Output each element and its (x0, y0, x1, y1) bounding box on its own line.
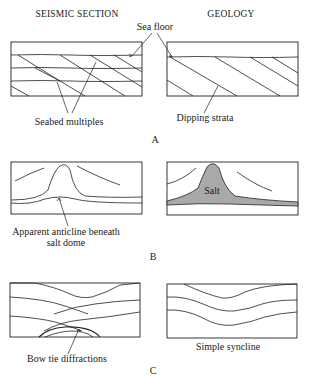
panel-b-seismic-box (11, 162, 142, 214)
salt-dome-body (167, 164, 298, 206)
apparent-anticline-label-line2: salt dome (47, 237, 86, 248)
panel-c: Bow tie diffractions Simple syncline C (10, 283, 297, 376)
panel-a: Sea floor Seabed multiples (11, 21, 298, 145)
panel-label-b: B (150, 251, 157, 262)
bow-tie-arrow (68, 329, 79, 354)
arrowhead (57, 198, 61, 201)
salt-label: Salt (204, 185, 220, 196)
apparent-anticline-label-line1: Apparent anticline beneath (12, 226, 120, 237)
multiples-arrow-2 (72, 62, 96, 113)
sea-floor-arrow-right (157, 33, 172, 57)
panel-b-geology-box: Salt (167, 162, 298, 215)
panel-a-geology-box (167, 42, 298, 96)
panel-a-seismic-box (11, 42, 142, 96)
panel-c-geology-box (167, 284, 297, 338)
header-geology: GEOLOGY (207, 9, 254, 19)
seismic-vs-geology-diagram: SEISMIC SECTION GEOLOGY Sea floor Seabed… (0, 0, 309, 378)
panel-label-c: C (150, 365, 157, 376)
header-seismic-section: SEISMIC SECTION (36, 9, 119, 19)
anticline-arrow (59, 198, 68, 226)
panel-c-seismic-box (10, 283, 140, 337)
panel-b: Apparent anticline beneath salt dome Sal… (11, 162, 298, 262)
dipping-strata-label: Dipping strata (177, 112, 234, 123)
sea-floor-label: Sea floor (137, 21, 174, 32)
dipping-strata-arrow (204, 86, 218, 113)
simple-syncline-label: Simple syncline (196, 341, 261, 352)
seabed-multiples-label: Seabed multiples (35, 116, 104, 127)
multiples-arrow-1 (57, 82, 68, 113)
bow-tie-diffractions-label: Bow tie diffractions (27, 353, 107, 364)
panel-label-a: A (151, 134, 159, 145)
